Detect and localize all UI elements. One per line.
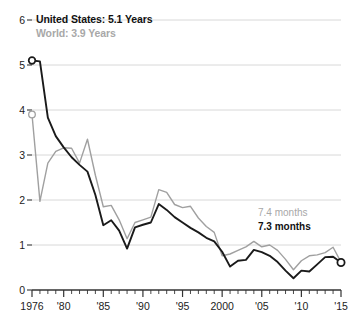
chart-plot-area: 0123456 1976'80'85'90'952000'05'10'15 [0,0,350,325]
y-axis-tick-label: 3 [19,149,25,161]
x-axis-tick-label: '15 [334,300,348,312]
x-axis-tick-label: '80 [57,300,71,312]
y-axis-tick-label: 2 [19,194,25,206]
gridlines-group [27,20,341,290]
x-axis-tick-label: '10 [295,300,309,312]
x-axis-tick-label: '05 [255,300,269,312]
y-axis-tick-label: 4 [19,104,25,116]
data-series-group [32,61,341,279]
x-axis-tick-label: 2000 [210,300,234,312]
start-marker-world [29,111,36,118]
y-axis-tick-label: 5 [19,59,25,71]
x-axis-tick-label: '85 [96,300,110,312]
y-axis-tick-label: 6 [19,14,25,26]
x-axis-tick-label: '95 [176,300,190,312]
series-line-world [32,115,341,270]
y-axis-tick-label: 0 [19,284,25,296]
y-axis-tick-labels: 0123456 [19,14,25,296]
line-chart: 0123456 1976'80'85'90'952000'05'10'15 Un… [0,0,350,325]
series-line-united-states [32,61,341,279]
x-axis-tick-label: 1976 [20,300,44,312]
y-axis-tick-label: 1 [19,239,25,251]
x-axis-tick-label: '90 [136,300,150,312]
x-axis-ticks-group [32,290,341,297]
start-marker-united-states [29,57,36,64]
end-marker-united-states [337,259,344,266]
x-axis-tick-labels: 1976'80'85'90'952000'05'10'15 [20,300,348,312]
